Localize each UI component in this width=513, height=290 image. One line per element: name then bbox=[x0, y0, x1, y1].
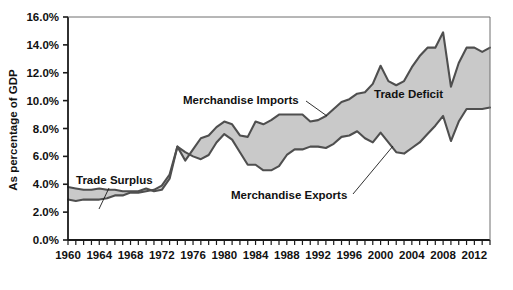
x-tick-label: 2004 bbox=[399, 249, 425, 261]
annotation-trade-surplus-label: Trade Surplus bbox=[76, 174, 153, 186]
x-tick-label: 1960 bbox=[55, 249, 81, 261]
y-tick-label: 0.0% bbox=[33, 234, 59, 246]
trade-balance-chart: 0.0%2.0%4.0%6.0%8.0%10.0%12.0%14.0%16.0%… bbox=[0, 0, 513, 290]
y-tick-label: 14.0% bbox=[26, 39, 59, 51]
x-tick-label: 1992 bbox=[305, 249, 331, 261]
y-tick-label: 10.0% bbox=[26, 95, 59, 107]
x-tick-label: 1964 bbox=[86, 249, 112, 261]
annotation-merchandise-exports-label: Merchandise Exports bbox=[231, 189, 347, 201]
x-tick-label: 1980 bbox=[211, 249, 237, 261]
x-tick-label: 1968 bbox=[118, 249, 144, 261]
y-tick-label: 6.0% bbox=[33, 150, 59, 162]
x-tick-label: 1984 bbox=[243, 249, 269, 261]
y-tick-label: 12.0% bbox=[26, 67, 59, 79]
y-tick-label: 8.0% bbox=[33, 123, 59, 135]
annotation-merchandise-imports-label: Merchandise Imports bbox=[183, 94, 299, 106]
x-tick-label: 1988 bbox=[274, 249, 300, 261]
x-tick-label: 1976 bbox=[180, 249, 206, 261]
y-tick-label: 4.0% bbox=[33, 178, 59, 190]
y-axis-title: As percentage of GDP bbox=[7, 69, 19, 191]
annotation-trade-deficit-label: Trade Deficit bbox=[374, 88, 443, 100]
x-tick-label: 2008 bbox=[430, 249, 456, 261]
x-tick-label: 2000 bbox=[368, 249, 394, 261]
y-tick-label: 2.0% bbox=[33, 206, 59, 218]
chart-figure: 0.0%2.0%4.0%6.0%8.0%10.0%12.0%14.0%16.0%… bbox=[0, 0, 513, 290]
x-tick-label: 1972 bbox=[149, 249, 175, 261]
x-tick-label: 2012 bbox=[462, 249, 488, 261]
y-tick-label: 16.0% bbox=[26, 11, 59, 23]
annotation-trade-deficit: Trade Deficit bbox=[374, 88, 443, 100]
x-tick-label: 1996 bbox=[337, 249, 363, 261]
